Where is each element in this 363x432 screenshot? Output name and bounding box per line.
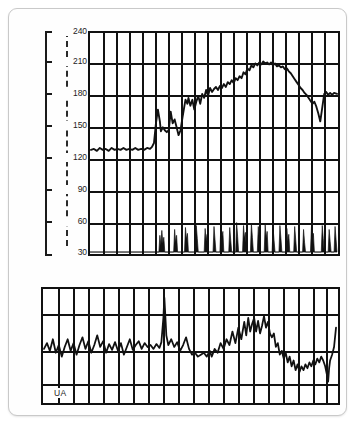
contraction-spikes: [90, 223, 337, 252]
ctg-card: 240 210 180 150 120 90 60 30: [8, 8, 347, 416]
axis-label-240: 240: [53, 27, 88, 36]
axis-tick-210: [45, 61, 52, 63]
axis-label-210: 210: [53, 57, 88, 66]
axis-tick-60: [45, 221, 52, 223]
axis-label-150: 150: [53, 121, 88, 130]
axis-tick-180: [45, 93, 52, 95]
axis-tick-150: [45, 125, 52, 127]
axis-label-30: 30: [53, 248, 88, 257]
ua-grid: UA: [41, 287, 340, 405]
fetal-heart-rate-panel: 240 210 180 150 120 90 60 30: [41, 21, 340, 266]
axis-label-120: 120: [53, 153, 88, 162]
axis-tick-120: [45, 157, 52, 159]
uterine-activity-panel: UA: [41, 287, 340, 405]
axis-label-180: 180: [53, 89, 88, 98]
ctg-screenshot: 240 210 180 150 120 90 60 30: [0, 0, 363, 432]
ua-trace: [43, 289, 338, 403]
fhr-grid: [88, 31, 340, 256]
ua-label: UA: [53, 388, 67, 398]
axis-label-90: 90: [53, 185, 88, 194]
axis-label-60: 60: [53, 217, 88, 226]
fhr-axis-scale: 240 210 180 150 120 90 60 30: [41, 31, 88, 256]
fhr-trace: [90, 33, 338, 254]
axis-tick-90: [45, 189, 52, 191]
